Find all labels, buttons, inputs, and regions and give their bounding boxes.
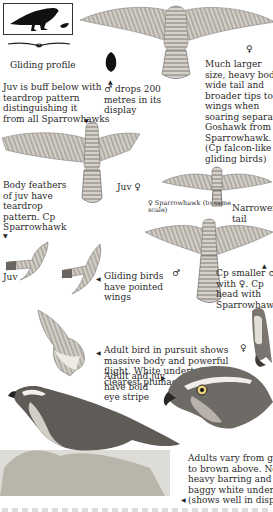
arrow-left-marker-2: ◀: [96, 349, 101, 356]
adult-pursuit-illustration: [30, 310, 92, 376]
gliding-profile-label: Gliding profile: [10, 60, 76, 71]
adults-vary-note: Adults vary from grey to brown above. No…: [188, 453, 273, 506]
perched-sparrowhawk-illustration: [246, 307, 272, 367]
male-drops-note: ♂ drops 200 metres in its display: [104, 84, 161, 116]
display-dive-silhouette-icon: [104, 52, 118, 72]
cropped-footer-text: [2, 508, 271, 512]
female-symbol-perched: ♀: [240, 343, 247, 354]
perched-adult-goshawk-illustration: [0, 378, 185, 496]
male-symbol-mid: ♂: [172, 268, 180, 279]
body-feathers-note: Body feathers of juv have teardrop patte…: [3, 180, 66, 233]
arrow-left-marker-3: ◀: [181, 496, 186, 503]
female-symbol-top: ♀: [246, 44, 253, 54]
gliding-profile-icon: [8, 40, 70, 50]
raven-silhouette-icon: [4, 4, 72, 34]
juv-female-label: Juv ♀: [117, 182, 141, 193]
juv-label: Juv: [3, 272, 18, 283]
cp-smaller-note: Cp smaller ♂ with ♀. Cp head with Sparro…: [216, 268, 273, 310]
arrow-left-marker: ◀: [96, 275, 101, 282]
much-larger-note: Much larger size, heavy body, wide tail …: [205, 59, 273, 164]
gliding-adult-illustration: [54, 244, 104, 294]
size-comparison-box: [3, 3, 73, 35]
sparrowhawk-scale-note: ♀ Sparrowhawk (to same scale): [148, 200, 231, 214]
arrow-down-marker-2: ▼: [3, 232, 8, 239]
juv-buff-note: Juv is buff below with teardrop pattern …: [3, 82, 109, 124]
gliding-pointed-note: Gliding birds have pointed wings: [104, 271, 163, 303]
